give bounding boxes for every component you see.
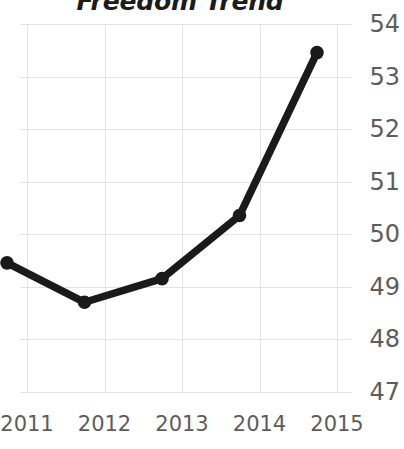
- y-axis-tick-label: 53: [356, 63, 400, 91]
- y-axis-tick-label: 49: [356, 273, 400, 301]
- data-point-marker: [233, 209, 247, 223]
- y-axis-tick-label: 51: [356, 168, 400, 196]
- series-markers: [0, 46, 324, 309]
- data-point-marker: [155, 272, 169, 286]
- x-axis-tick-label: 2012: [60, 412, 150, 436]
- x-axis-tick-label: 2014: [215, 412, 305, 436]
- x-axis-tick-label: 2015: [292, 412, 382, 436]
- y-axis-tick-label: 54: [356, 10, 400, 38]
- line-chart: Freedom Trend 4748495051525354 201120122…: [0, 0, 404, 449]
- data-point-marker: [78, 295, 92, 309]
- data-point-marker: [0, 256, 14, 270]
- y-axis-tick-label: 47: [356, 378, 400, 406]
- series-polyline: [7, 53, 317, 303]
- y-axis-tick-label: 50: [356, 220, 400, 248]
- data-series-line: [0, 0, 384, 425]
- y-axis-tick-label: 52: [356, 115, 400, 143]
- y-axis-tick-label: 48: [356, 325, 400, 353]
- data-point-marker: [310, 46, 324, 60]
- x-axis-tick-label: 2013: [137, 412, 227, 436]
